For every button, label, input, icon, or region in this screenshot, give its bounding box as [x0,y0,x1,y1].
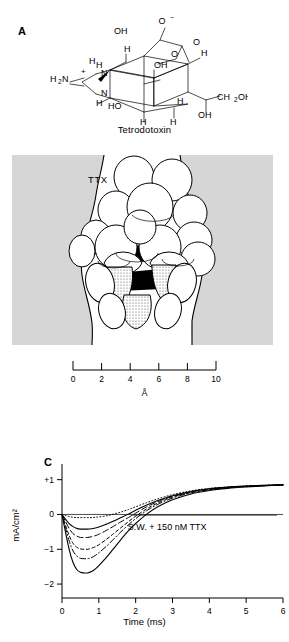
chart-axes [57,464,283,603]
x-tick-3: 3 [170,606,175,616]
atom-label-O-minus: O [158,16,165,26]
atom-label-CH2OH: CH [217,92,230,102]
y-axis-label: mA/cm² [10,490,21,562]
series-trace-1 [62,485,283,518]
panel-a-label: A [18,26,26,37]
scale-tick-6: 6 [156,374,161,384]
atom-label-H2N-N: N [62,74,69,84]
ttx-molecule-label: TTX [88,174,108,185]
atom-label-charge-plus: + [81,67,86,76]
atom-label-H-wedge: H [89,56,96,66]
chart-tick-labels: 0123456+10−1−2 [44,475,285,616]
scale-tick-2: 2 [99,374,104,384]
tetrodotoxin-structure-diagram: O − OH O O H H OH H H N N H H 2 N + HO H… [48,12,248,130]
ttx-condition-annotation: S.W. + 150 nM TTX [128,522,207,532]
atom-label-H2N: H [50,74,57,84]
x-tick-1: 1 [96,606,101,616]
x-tick-2: 2 [133,606,138,616]
figure-root: A [0,0,289,642]
scale-tick-10: 10 [211,374,220,384]
atom-label-OH-bottom: OH [198,110,212,120]
atom-label-O-bridge: O [171,49,178,59]
atom-label-H-bottom3: H [177,96,184,106]
angstrom-scale-bar: 0 2 4 6 8 10 Å [72,360,217,404]
panel-a-caption: Tetrodotoxin [0,124,289,135]
atom-label-CH2OH-end: OH [238,92,248,102]
series-trace-4 [62,485,283,549]
x-axis-label: Time (ms) [0,616,289,627]
atom-label-H-right: H [201,48,208,58]
atom-label-N-lower: N [101,88,108,98]
panel-b: B [0,148,289,416]
x-tick-0: 0 [60,606,65,616]
atom-label-H-n2: H [96,98,103,108]
atom-label-O-right: O [193,37,200,47]
y-tick-0: +1 [44,475,54,485]
y-tick-2: −1 [44,544,54,554]
atom-label-HO: HO [108,101,122,111]
scale-unit-label: Å [72,388,217,398]
x-tick-4: 4 [207,606,212,616]
atom-label-N-upper: N [101,68,108,78]
y-tick-3: −2 [44,579,54,589]
panel-a: A [0,0,289,148]
membrane-pore-illustration [12,155,273,345]
scale-tick-0: 0 [71,374,76,384]
panel-c: C 0123456+10−1−2 mA/cm² Time (ms) S.W. +… [0,446,289,642]
y-tick-1: 0 [49,509,54,519]
atom-label-H-upper: H [124,44,131,54]
current-vs-time-chart: 0123456+10−1−2 [0,446,289,642]
atom-label-OH-top: OH [114,26,128,36]
scale-tick-4: 4 [128,374,133,384]
scale-tick-8: 8 [185,374,190,384]
atom-label-OH-mid: OH [154,60,168,70]
x-tick-6: 6 [281,606,286,616]
atom-label-charge-minus: − [170,14,174,21]
x-tick-5: 5 [244,606,249,616]
